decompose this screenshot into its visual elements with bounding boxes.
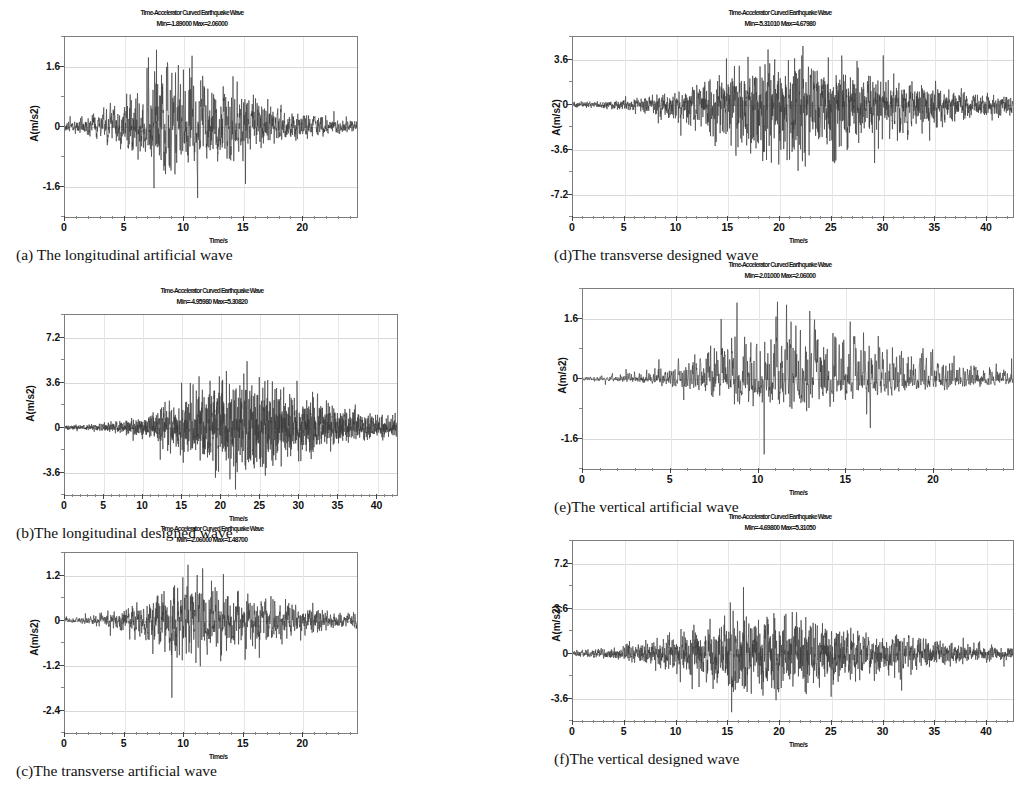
x-tick-mark bbox=[665, 216, 666, 219]
panel-a: Time-Accelerator Curved Earthquake Wave … bbox=[12, 8, 372, 263]
caption-a: (a) The longitudinal artificial wave bbox=[16, 246, 233, 264]
x-tick-mark bbox=[758, 720, 759, 723]
x-tick-mark bbox=[603, 216, 604, 219]
x-tick-label: 35 bbox=[332, 499, 344, 511]
x-tick-mark bbox=[290, 732, 291, 735]
x-tick-mark bbox=[945, 720, 946, 723]
x-axis-label-e: Time/s bbox=[789, 488, 808, 497]
x-tick-mark bbox=[326, 732, 327, 735]
x-tick-mark bbox=[159, 216, 160, 219]
y-tick-mark bbox=[579, 288, 582, 289]
x-tick-mark bbox=[951, 468, 952, 471]
x-tick-mark bbox=[893, 720, 894, 723]
chart-minmax-c: Min=-2.06000 Max=1.48700 bbox=[28, 535, 396, 544]
x-tick-label: 40 bbox=[980, 221, 992, 233]
x-tick-mark bbox=[852, 216, 853, 219]
x-tick-mark bbox=[1003, 468, 1004, 471]
x-tick-label: 35 bbox=[929, 221, 941, 233]
plot-area-b bbox=[64, 314, 398, 496]
y-tick-mark bbox=[569, 675, 572, 676]
x-tick-label: 25 bbox=[825, 221, 837, 233]
y-tick-mark bbox=[579, 348, 582, 349]
x-tick-label: 20 bbox=[773, 221, 785, 233]
x-tick-mark bbox=[903, 216, 904, 219]
y-tick-label: -7.2 bbox=[538, 188, 568, 199]
x-axis-label-f: Time/s bbox=[789, 740, 808, 749]
x-tick-mark bbox=[314, 216, 315, 219]
y-tick-label: 0 bbox=[538, 98, 568, 109]
x-tick-mark bbox=[95, 494, 96, 497]
x-tick-label: 0 bbox=[569, 221, 575, 233]
x-tick-mark bbox=[644, 720, 645, 723]
chart-title-e: Time-Accelerator Curved Earthquake Wave bbox=[559, 260, 1001, 269]
x-tick-mark bbox=[738, 216, 739, 219]
waveform-trace-c bbox=[65, 553, 357, 733]
y-tick-mark bbox=[61, 449, 64, 450]
x-tick-mark bbox=[862, 720, 863, 723]
x-tick-mark bbox=[924, 216, 925, 219]
x-tick-mark bbox=[251, 494, 252, 497]
x-tick-label: 40 bbox=[371, 499, 383, 511]
x-tick-mark bbox=[758, 216, 759, 219]
x-tick-label: 25 bbox=[825, 725, 837, 737]
x-tick-mark bbox=[158, 494, 159, 497]
x-tick-mark bbox=[350, 216, 351, 219]
y-tick-label: 1.2 bbox=[30, 569, 60, 580]
x-tick-mark bbox=[955, 720, 956, 723]
x-tick-mark bbox=[775, 468, 776, 471]
x-tick-mark bbox=[147, 216, 148, 219]
x-tick-label: 0 bbox=[61, 737, 67, 749]
x-tick-mark bbox=[686, 216, 687, 219]
x-tick-mark bbox=[326, 216, 327, 219]
caption-c: (c)The transverse artificial wave bbox=[16, 762, 217, 780]
x-tick-label: 0 bbox=[61, 221, 67, 233]
x-tick-mark bbox=[644, 216, 645, 219]
panel-c: Time-Accelerator Curved Earthquake Wave … bbox=[12, 524, 412, 779]
x-tick-mark bbox=[255, 216, 256, 219]
y-tick-mark bbox=[61, 156, 64, 157]
y-tick-mark bbox=[61, 314, 64, 315]
x-tick-label: 30 bbox=[293, 499, 305, 511]
x-tick-mark bbox=[665, 720, 666, 723]
x-tick-mark bbox=[173, 494, 174, 497]
x-tick-label: 0 bbox=[61, 499, 67, 511]
x-tick-mark bbox=[100, 732, 101, 735]
x-tick-label: 25 bbox=[253, 499, 265, 511]
x-axis-label-a: Time/s bbox=[209, 236, 228, 245]
x-tick-mark bbox=[88, 216, 89, 219]
x-tick-label: 20 bbox=[214, 499, 226, 511]
x-tick-label: 10 bbox=[177, 737, 189, 749]
x-tick-mark bbox=[76, 216, 77, 219]
x-tick-mark bbox=[652, 468, 653, 471]
x-tick-mark bbox=[635, 468, 636, 471]
y-tick-label: 7.2 bbox=[538, 557, 568, 568]
x-tick-mark bbox=[228, 494, 229, 497]
x-tick-mark bbox=[769, 720, 770, 723]
x-tick-label: 5 bbox=[621, 221, 627, 233]
x-tick-mark bbox=[717, 216, 718, 219]
y-tick-mark bbox=[569, 585, 572, 586]
waveform-trace-a bbox=[65, 37, 357, 217]
y-tick-mark bbox=[61, 404, 64, 405]
x-tick-label: 15 bbox=[175, 499, 187, 511]
x-tick-mark bbox=[582, 720, 583, 723]
x-tick-mark bbox=[707, 720, 708, 723]
x-tick-mark bbox=[722, 468, 723, 471]
waveform-trace-b bbox=[65, 315, 397, 495]
x-tick-mark bbox=[353, 494, 354, 497]
y-tick-label: 3.6 bbox=[538, 53, 568, 64]
x-tick-mark bbox=[968, 468, 969, 471]
x-tick-mark bbox=[945, 216, 946, 219]
y-tick-label: -3.6 bbox=[30, 466, 60, 477]
x-tick-label: 15 bbox=[237, 221, 249, 233]
y-tick-mark bbox=[61, 642, 64, 643]
x-tick-label: 10 bbox=[670, 221, 682, 233]
x-tick-mark bbox=[350, 732, 351, 735]
x-tick-mark bbox=[80, 494, 81, 497]
x-tick-mark bbox=[740, 468, 741, 471]
x-axis-label-b: Time/s bbox=[229, 514, 248, 523]
x-tick-mark bbox=[789, 720, 790, 723]
x-tick-mark bbox=[717, 720, 718, 723]
y-tick-label: -3.6 bbox=[538, 143, 568, 154]
x-tick-mark bbox=[267, 216, 268, 219]
